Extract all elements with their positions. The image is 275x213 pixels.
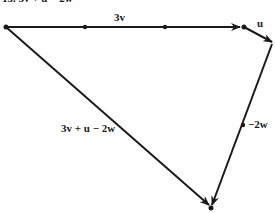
- diagram-canvas: [0, 0, 275, 213]
- label-neg-2w: −2w: [248, 118, 268, 130]
- point-w-mid: [241, 123, 245, 127]
- point-end: [209, 206, 214, 211]
- point-v1: [83, 25, 87, 29]
- label-3v: 3v: [114, 11, 125, 23]
- vector-resultant: [6, 27, 209, 205]
- label-resultant: 3v + u − 2w: [61, 122, 115, 134]
- point-origin: [4, 25, 9, 30]
- point-v2: [163, 25, 167, 29]
- vector-u: [244, 27, 272, 42]
- point-3v-end: [242, 25, 247, 30]
- vector-diagram: 15. 3v + u − 2w 3v u −2w 3v + u − 2w: [0, 0, 275, 213]
- label-u: u: [257, 17, 263, 29]
